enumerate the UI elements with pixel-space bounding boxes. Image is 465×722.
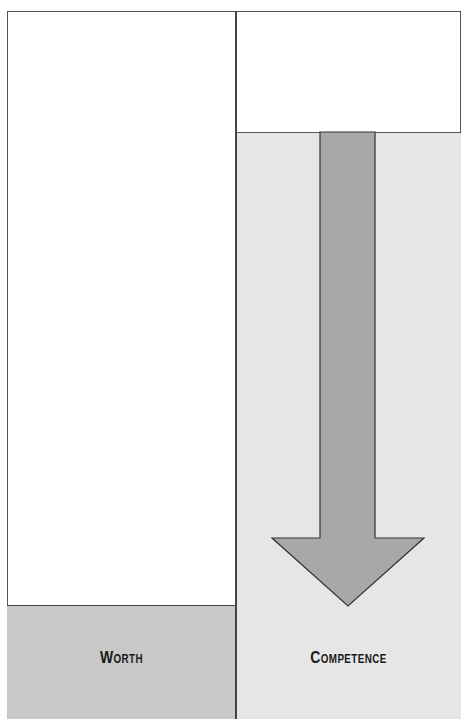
down-arrow-icon: [0, 0, 465, 722]
competence-label: Competence: [256, 648, 441, 668]
worth-label: Worth: [28, 648, 216, 668]
